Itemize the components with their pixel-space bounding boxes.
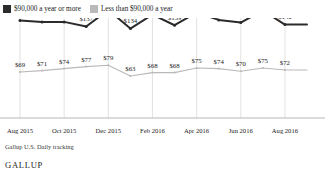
legend-item-high-income: $90,000 a year or more bbox=[3, 5, 81, 13]
data-label: $134 bbox=[124, 18, 138, 24]
line-chart-svg: $69$71$74$77$79$63$68$68$75$74$70$75$72$… bbox=[0, 18, 325, 125]
data-point bbox=[240, 70, 242, 72]
data-point bbox=[85, 66, 87, 68]
x-tick-label: Jun 2016 bbox=[229, 126, 253, 136]
legend-label-low-income: Less than $90,000 a year bbox=[101, 5, 173, 13]
legend-item-low-income: Less than $90,000 a year bbox=[90, 5, 173, 13]
data-point bbox=[85, 25, 88, 28]
data-label: $68 bbox=[169, 62, 180, 69]
gallup-logo: GALLUP bbox=[5, 160, 43, 170]
data-label: $72 bbox=[280, 59, 291, 66]
x-axis-labels: Aug 2015Oct 2015Dec 2015Feb 2016Apr 2016… bbox=[0, 126, 325, 138]
x-tick-label: Oct 2015 bbox=[52, 126, 76, 136]
data-label: $77 bbox=[81, 56, 92, 63]
source-note: Gallup U.S. Daily tracking bbox=[5, 143, 74, 150]
chart-container: $90,000 a year or more Less than $90,000… bbox=[0, 0, 325, 178]
x-tick-label: Aug 2015 bbox=[7, 126, 33, 136]
data-label: $63 bbox=[125, 65, 136, 72]
data-point bbox=[19, 71, 21, 73]
data-label: $74 bbox=[214, 58, 225, 65]
data-label: $139 bbox=[168, 18, 182, 21]
data-label: $75 bbox=[258, 57, 269, 64]
data-label: $71 bbox=[37, 60, 47, 67]
data-point bbox=[63, 20, 66, 23]
data-point bbox=[63, 68, 65, 70]
data-point bbox=[19, 19, 22, 22]
data-point bbox=[129, 75, 131, 77]
x-tick-label: Dec 2015 bbox=[96, 126, 121, 136]
legend-label-high-income: $90,000 a year or more bbox=[14, 5, 81, 13]
legend-swatch-low-income bbox=[90, 5, 98, 13]
data-point bbox=[129, 27, 132, 30]
data-point bbox=[283, 23, 286, 26]
x-tick-label: Apr 2016 bbox=[184, 126, 209, 136]
data-point bbox=[107, 64, 109, 66]
data-label: $79 bbox=[103, 54, 114, 61]
data-point bbox=[196, 67, 198, 69]
legend-swatch-high-income bbox=[3, 5, 11, 13]
data-label: $140 bbox=[278, 18, 292, 20]
x-tick-label: Aug 2016 bbox=[272, 126, 298, 136]
data-point bbox=[41, 70, 43, 72]
data-point bbox=[284, 69, 286, 71]
plot-area: $69$71$74$77$79$63$68$68$75$74$70$75$72$… bbox=[0, 18, 325, 125]
data-point bbox=[173, 24, 176, 27]
data-label: $69 bbox=[15, 61, 26, 68]
chart-legend: $90,000 a year or more Less than $90,000… bbox=[3, 3, 173, 15]
series-line-low-income bbox=[20, 65, 307, 76]
data-point bbox=[262, 67, 264, 69]
data-point bbox=[239, 21, 242, 24]
data-point bbox=[217, 18, 220, 21]
data-point bbox=[151, 72, 153, 74]
data-point bbox=[41, 20, 44, 23]
series-line-high-income bbox=[20, 18, 307, 29]
data-label: $75 bbox=[192, 57, 203, 64]
data-label: $137 bbox=[79, 18, 93, 22]
data-label: $70 bbox=[236, 60, 247, 67]
x-tick-label: Feb 2016 bbox=[140, 126, 165, 136]
data-point bbox=[218, 68, 220, 70]
data-point bbox=[174, 72, 176, 74]
data-label: $74 bbox=[59, 58, 70, 65]
data-label: $68 bbox=[147, 62, 158, 69]
